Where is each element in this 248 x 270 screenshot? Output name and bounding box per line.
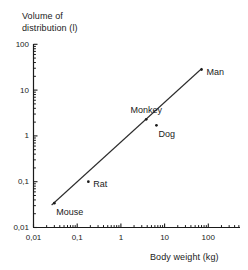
regression-line [52,68,202,205]
x-tick-label: 0,1 [60,233,94,242]
data-point [155,124,158,127]
data-point [200,68,203,71]
x-tick-label: 1 [104,233,138,242]
y-tick-label: 10 [2,86,29,95]
data-point-markers [53,68,203,204]
y-tick-label: 0,1 [2,177,29,186]
y-tick-label: 0,01 [2,223,29,232]
data-point-label: Monkey [116,105,176,115]
x-tick-label: 10 [148,233,182,242]
chart-figure: Volume ofdistribution (l) Body weight (k… [0,0,248,270]
data-point-label: Dog [158,129,175,139]
y-tick-label: 1 [2,131,29,140]
x-tick-label: 100 [191,233,225,242]
data-point [145,118,148,121]
x-tick-label: 0,01 [17,233,51,242]
data-point-label: Rat [93,179,107,189]
data-point-label: Mouse [56,207,83,217]
data-point [87,180,90,183]
data-point [53,202,56,205]
plot-area [0,0,248,270]
data-point-label: Man [207,67,225,77]
regression-line-segment [52,68,202,205]
y-tick-label: 100 [2,40,29,49]
